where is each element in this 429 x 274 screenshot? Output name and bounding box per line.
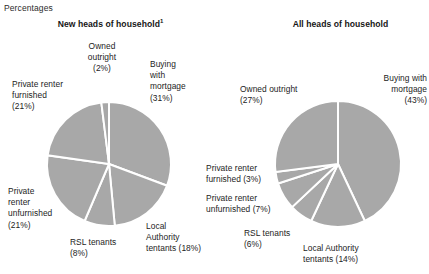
slice-label-owned-outright-new: Ownedoutright(2%): [74, 41, 130, 75]
slice-label-buying-with-mortgage-all: Buying withmortgage(43%): [369, 73, 427, 107]
panel-title-new-heads: New heads of household1: [38, 19, 183, 29]
slice-label-local-authority-tenants-all: Local Authoritytentants (14%): [303, 243, 383, 265]
panel-title-all-heads: All heads of household: [268, 19, 413, 29]
slice-label-owned-outright-all: Owned outright(27%): [240, 84, 320, 106]
panel-title-footnote-marker: 1: [160, 18, 163, 24]
units-label: Percentages: [4, 3, 53, 13]
slice-label-private-renter-unfurnished-new: Privaterenterunfurnished(21%): [8, 186, 74, 231]
slice-label-local-authority-tenants-new: LocalAuthoritytentants (18%): [146, 221, 226, 255]
pie-slice: [278, 164, 338, 207]
slice-label-private-renter-furnished-new: Private renterfurnished(21%): [12, 79, 92, 113]
slice-label-rsl-tenants-all: RSL tenants(6%): [244, 228, 310, 250]
slice-label-private-renter-furnished-all: Private renterfurnished (3%): [206, 163, 282, 185]
figure-container: Percentages New heads of household1 All …: [0, 0, 429, 274]
slice-label-private-renter-unfurnished-all: Private renterunfurnished (7%): [206, 193, 284, 215]
pie-slice: [109, 102, 171, 186]
pie-slice: [292, 164, 338, 221]
slice-label-rsl-tenants-new: RSL tenants(8%): [70, 237, 140, 259]
pie-slice: [101, 102, 109, 164]
panel-title-new-heads-text: New heads of household: [58, 19, 160, 29]
pie-slice: [311, 164, 365, 227]
slice-label-buying-with-mortgage-new: Buyingwithmortgage(31%): [150, 59, 208, 104]
pie-slice: [275, 101, 338, 172]
pie-slice: [85, 164, 115, 226]
pie-slice: [338, 101, 401, 221]
pie-slice: [276, 164, 339, 183]
pie-chart-all-heads: [275, 101, 401, 227]
pie-slice: [109, 164, 167, 226]
